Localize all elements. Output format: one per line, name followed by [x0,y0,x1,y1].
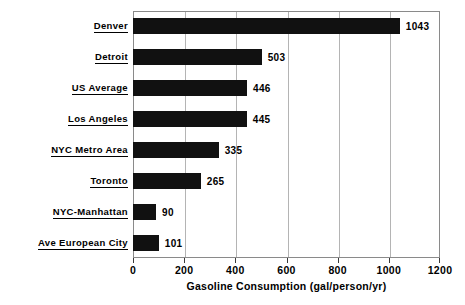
category-label: US Average [72,82,128,95]
x-tick-label: 600 [277,264,295,276]
category-axis-labels: DenverDetroitUS AverageLos AngelesNYC Me… [0,11,128,258]
category-label: Detroit [95,51,128,64]
bar-value-label: 335 [225,142,243,158]
bars-layer: 104350344644533526590101 [133,11,440,258]
x-axis-title: Gasoline Consumption (gal/person/yr) [133,280,440,292]
x-tick-mark [389,258,390,263]
category-label: Denver [94,20,128,33]
x-tick-mark [184,258,185,263]
x-tick-label: 1000 [377,264,402,276]
bar [133,111,247,127]
gasoline-consumption-bar-chart: DenverDetroitUS AverageLos AngelesNYC Me… [0,0,465,305]
category-label: NYC-Manhattan [53,206,128,219]
x-tick-label: 400 [226,264,244,276]
category-label: Ave European City [38,237,128,250]
x-tick-mark [439,258,440,263]
bar-value-label: 101 [165,235,183,251]
category-label-row: Denver [0,18,128,34]
bar [133,235,159,251]
x-tick-label: 1200 [428,264,453,276]
x-tick-mark [235,258,236,263]
x-tick-label: 200 [175,264,193,276]
category-label: Los Angeles [68,113,128,126]
bar-value-label: 503 [268,49,286,65]
category-label-row: US Average [0,80,128,96]
x-axis-tick-labels: 020040060080010001200 [133,264,440,278]
bar [133,142,219,158]
x-tick-mark [338,258,339,263]
bar [133,80,247,96]
category-label: NYC Metro Area [51,144,128,157]
category-label-row: Ave European City [0,235,128,251]
category-label: Toronto [90,175,128,188]
x-tick-mark [287,258,288,263]
bar [133,173,201,189]
category-label-row: NYC-Manhattan [0,204,128,220]
bar [133,204,156,220]
x-tick-mark [133,258,134,263]
bar [133,18,400,34]
bar-value-label: 90 [162,204,174,220]
category-label-row: NYC Metro Area [0,142,128,158]
category-label-row: Detroit [0,49,128,65]
category-label-row: Toronto [0,173,128,189]
bar-value-label: 1043 [406,18,429,34]
bar-value-label: 265 [207,173,225,189]
bar [133,49,262,65]
bar-value-label: 445 [253,111,271,127]
category-label-row: Los Angeles [0,111,128,127]
x-tick-label: 0 [130,264,136,276]
bar-value-label: 446 [253,80,271,96]
x-tick-label: 800 [328,264,346,276]
